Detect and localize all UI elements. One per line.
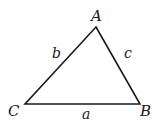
vertex-label-c: C <box>8 102 20 120</box>
side-label-c: c <box>124 45 132 61</box>
side-label-a: a <box>82 106 90 122</box>
triangle-diagram: A B C a b c <box>0 0 156 124</box>
vertex-label-a: A <box>89 7 102 25</box>
side-label-b: b <box>52 45 61 61</box>
vertex-label-b: B <box>139 102 151 120</box>
triangle-shape <box>25 27 140 104</box>
